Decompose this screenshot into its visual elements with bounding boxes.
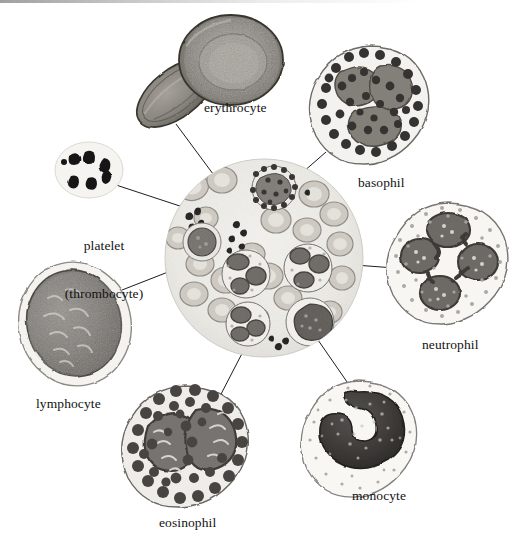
cell-erythrocyte	[128, 8, 298, 138]
cell-basophil	[306, 42, 434, 168]
label-monocyte: monocyte	[352, 488, 406, 503]
label-eosinophil: eosinophil	[159, 515, 216, 530]
blood-cell-diagram: erythrocyte basophil platelet (thrombocy…	[0, 0, 529, 541]
cell-neutrophil	[382, 200, 514, 330]
label-platelet: platelet (thrombocyte)	[44, 206, 164, 334]
label-neutrophil: neutrophil	[422, 337, 479, 352]
label-lymphocyte: lymphocyte	[36, 396, 101, 411]
cell-platelet-cluster	[52, 140, 126, 202]
central-blood-smear	[164, 158, 364, 358]
label-platelet-line1: platelet	[44, 238, 164, 254]
label-platelet-line2: (thrombocyte)	[44, 286, 164, 302]
cell-eosinophil	[118, 382, 254, 510]
scan-edge-artifact	[0, 0, 420, 3]
label-basophil: basophil	[358, 175, 405, 190]
cell-monocyte	[296, 378, 422, 500]
label-erythrocyte: erythrocyte	[204, 100, 267, 115]
